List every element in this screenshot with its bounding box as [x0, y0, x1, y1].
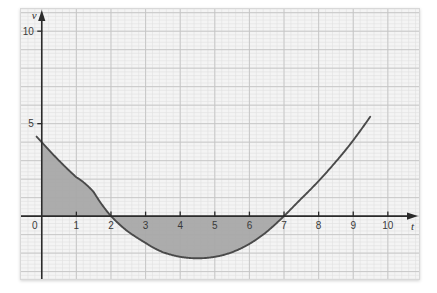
x-tick-label: 6: [247, 220, 253, 231]
y-tick-label: 10: [23, 26, 35, 37]
x-tick-label: 7: [281, 220, 287, 231]
y-tick-label: 5: [28, 118, 34, 129]
x-tick-label: 0: [32, 220, 38, 231]
x-tick-label: 8: [316, 220, 322, 231]
x-axis-label: t: [411, 220, 415, 232]
graph-paper: 012345678910510vt: [20, 8, 420, 280]
x-tick-label: 5: [212, 220, 218, 231]
x-tick-label: 1: [74, 220, 80, 231]
figure-stage: 012345678910510vt: [0, 0, 437, 293]
x-tick-label: 3: [143, 220, 149, 231]
x-tick-label: 9: [350, 220, 356, 231]
y-axis-label: v: [32, 9, 37, 21]
x-tick-label: 10: [382, 220, 394, 231]
x-tick-label: 2: [108, 220, 114, 231]
x-tick-label: 4: [177, 220, 183, 231]
velocity-time-chart: 012345678910510vt: [21, 9, 419, 279]
y-axis-ticks: 510: [23, 26, 43, 129]
